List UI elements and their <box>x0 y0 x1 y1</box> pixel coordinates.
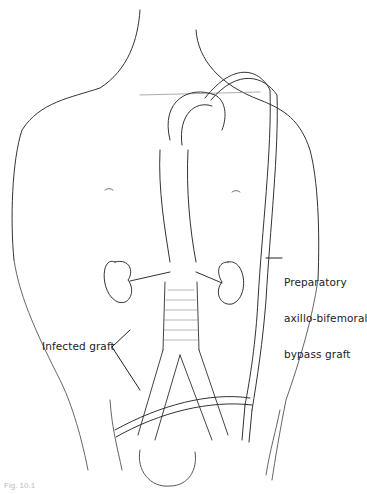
bypass-graft-label: Preparatory axillo-bifemoral bypass graf… <box>284 252 367 372</box>
bypass-label-line2: axillo-bifemoral <box>284 312 367 324</box>
aortic-arch <box>168 92 225 140</box>
body-outline-right <box>196 30 319 280</box>
bypass-label-line3: bypass graft <box>284 348 367 360</box>
scrotum <box>139 450 195 486</box>
infected-graft-label: Infected graft <box>42 340 115 352</box>
crossover-limb <box>115 397 252 437</box>
bypass-graft <box>115 72 277 442</box>
kidney-left <box>104 261 132 302</box>
body-outline-left <box>12 10 140 260</box>
aorta <box>160 150 196 262</box>
infected-graft <box>138 282 228 440</box>
figure-caption: Fig. 10.1 <box>4 481 35 490</box>
bypass-label-line1: Preparatory <box>284 276 367 288</box>
infected-leader <box>112 330 140 390</box>
